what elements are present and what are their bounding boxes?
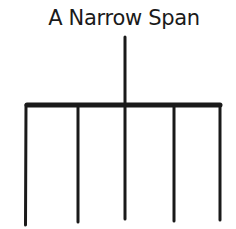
leg-line — [26, 105, 27, 225]
horizontal-bar — [25, 103, 223, 108]
span-diagram — [0, 0, 236, 229]
